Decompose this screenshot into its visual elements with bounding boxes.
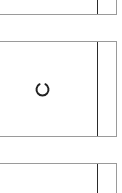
card-main-area[interactable] xyxy=(0,0,98,14)
card-main-area[interactable] xyxy=(0,164,98,193)
list-card-top[interactable] xyxy=(0,0,117,15)
card-side-panel[interactable] xyxy=(98,0,116,14)
list-viewport xyxy=(0,0,122,193)
card-side-panel[interactable] xyxy=(98,164,116,193)
list-card-bottom[interactable] xyxy=(0,163,117,193)
loading-spinner-icon xyxy=(35,82,50,97)
list-card-loading[interactable] xyxy=(0,41,117,137)
card-side-panel[interactable] xyxy=(98,42,116,136)
